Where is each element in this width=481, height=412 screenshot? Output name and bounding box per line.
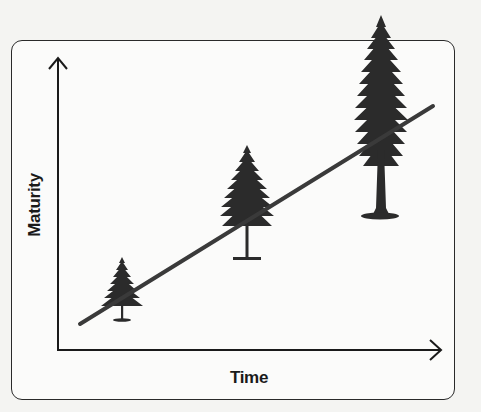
y-axis-label: Maturity — [25, 173, 45, 237]
x-axis — [57, 340, 441, 360]
middle-tree-icon — [220, 145, 274, 260]
diagram-graphics — [0, 0, 481, 412]
y-axis — [49, 58, 67, 350]
mature-tree-icon — [354, 15, 408, 220]
diagram-canvas: Maturity Time — [0, 0, 481, 412]
x-axis-label: Time — [230, 368, 268, 388]
